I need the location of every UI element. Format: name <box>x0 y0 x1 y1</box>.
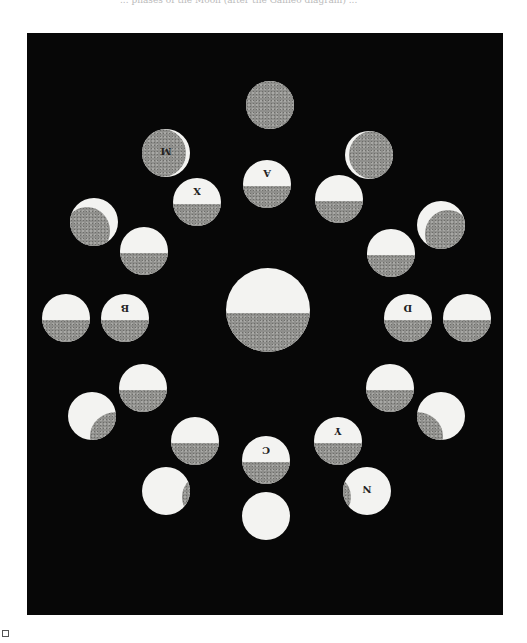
moon-B: B <box>101 294 149 342</box>
moon-outer-upper-right <box>417 201 465 249</box>
moon-outer-bottom-full <box>242 492 290 540</box>
moon-outer-top-right <box>345 131 393 179</box>
moon-outer-lower-right <box>417 392 465 440</box>
moon-inner-right-upper <box>367 229 415 277</box>
moon-outer-lower-left <box>68 392 116 440</box>
figure-caption: ... phases of the Moon (after the Galile… <box>120 0 357 5</box>
moon-C: C <box>242 436 290 484</box>
moon-Y: Y <box>314 417 362 465</box>
moon-A: A <box>243 160 291 208</box>
moon-outer-upper-left <box>70 198 118 246</box>
moon-outer-left-half <box>42 294 90 342</box>
label-D: D <box>384 303 432 314</box>
moon-inner-bottom-left <box>171 417 219 465</box>
label-X: X <box>173 186 221 197</box>
checkbox-marker-icon <box>2 630 9 637</box>
label-C: C <box>242 445 290 456</box>
central-earth <box>226 268 310 352</box>
moon-phase-plate: A X B D Y C M <box>27 33 503 615</box>
label-N: N <box>343 484 391 495</box>
moon-D: D <box>384 294 432 342</box>
moon-inner-right-lower <box>366 364 414 412</box>
moon-X: X <box>173 178 221 226</box>
moon-outer-right-half <box>443 294 491 342</box>
moon-inner-top-right <box>315 175 363 223</box>
moon-inner-left-upper <box>120 227 168 275</box>
label-A: A <box>243 168 291 179</box>
label-Y: Y <box>314 426 362 437</box>
moon-N: N <box>343 467 391 515</box>
label-B: B <box>101 303 149 314</box>
label-M: M <box>142 146 190 157</box>
moon-outer-top-new <box>246 81 294 129</box>
moon-outer-bottom-left <box>142 467 190 515</box>
moon-M: M <box>142 129 190 177</box>
moon-inner-left-lower <box>119 364 167 412</box>
